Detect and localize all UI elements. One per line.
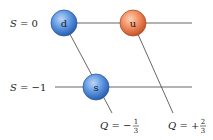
- charge-label-minus-third: Q = − 1 3: [100, 118, 139, 135]
- quark-diagram: S = 0 S = −1 d u s Q = − 1 3 Q = + 2 3: [0, 0, 213, 140]
- svg-text:3: 3: [134, 127, 138, 135]
- svg-text:1: 1: [134, 118, 138, 126]
- charge-label-plus-two-thirds: Q = + 2 3: [168, 118, 206, 135]
- quark-node-s: s: [83, 74, 109, 100]
- strangeness-label-minus1: S = −1: [10, 82, 46, 93]
- node-label-u: u: [130, 18, 137, 29]
- svg-text:3: 3: [201, 127, 205, 135]
- strangeness-label-0: S = 0: [10, 18, 38, 29]
- charge-line-plus-two-thirds: [133, 23, 173, 113]
- quark-node-u: u: [120, 10, 146, 36]
- quark-node-d: d: [51, 10, 77, 36]
- charge-line-minus-third: [64, 23, 112, 113]
- node-label-s: s: [93, 82, 98, 93]
- svg-text:Q = −: Q = −: [100, 120, 131, 131]
- svg-text:Q = +: Q = +: [168, 120, 199, 131]
- node-label-d: d: [61, 18, 68, 29]
- svg-text:2: 2: [201, 118, 205, 126]
